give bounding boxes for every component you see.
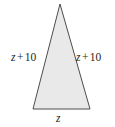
label-right-side: z+10 [76, 52, 101, 64]
label-left-side: z+10 [11, 52, 36, 64]
label-left-side-number: 10 [25, 51, 37, 63]
label-left-side-operator: + [16, 51, 25, 63]
label-base-variable: z [56, 112, 61, 124]
label-base: z [56, 113, 61, 125]
triangle-shape [0, 0, 115, 127]
label-right-side-operator: + [81, 51, 90, 63]
geometry-figure: z+10 z+10 z [0, 0, 115, 127]
label-right-side-number: 10 [90, 51, 102, 63]
